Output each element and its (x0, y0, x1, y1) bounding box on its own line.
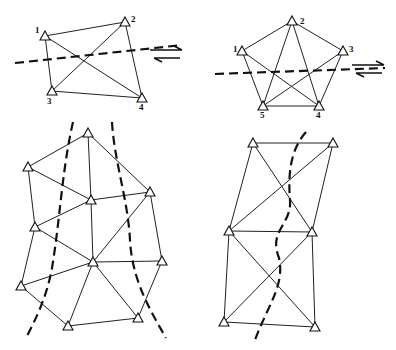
station-label: 1 (35, 25, 40, 35)
fault-traces (15, 45, 385, 340)
triangle-station-icon (16, 281, 26, 290)
station-label: 1 (233, 44, 238, 54)
baseline-edge (312, 143, 333, 232)
baseline-edge (35, 227, 93, 262)
baseline-edge (263, 21, 292, 106)
baseline-edge (45, 36, 52, 91)
station-label: 5 (260, 110, 265, 120)
baseline-edge (68, 318, 138, 326)
baseline-edge (52, 91, 142, 98)
baseline-edge (28, 167, 91, 200)
baseline-edge (88, 133, 91, 200)
baseline-edge (292, 21, 319, 106)
triangle-station-icon (157, 256, 167, 265)
baseline-edge (21, 286, 68, 326)
baseline-edge (68, 262, 93, 326)
baseline-edge (91, 200, 93, 262)
survey-stations (16, 16, 348, 331)
triangle-station-icon (83, 128, 93, 137)
fault-diagram-canvas: 123412345 (0, 0, 396, 350)
baseline-edge (88, 133, 150, 192)
baseline-edge (229, 231, 315, 327)
baseline-edge (21, 227, 35, 286)
baseline-edge (229, 231, 312, 232)
triangle-station-icon (30, 222, 40, 231)
baseline-edge (91, 192, 150, 200)
baseline-edge (93, 261, 162, 262)
triangle-station-icon (23, 162, 33, 171)
baseline-edge (21, 262, 93, 286)
triangle-station-icon (224, 226, 234, 235)
station-label: 2 (131, 14, 136, 24)
station-label: 3 (47, 96, 52, 106)
triangle-station-icon (287, 16, 297, 25)
baseline-edge (28, 167, 35, 227)
station-label: 4 (139, 102, 144, 112)
triangle-station-icon (237, 46, 247, 55)
triangle-station-icon (338, 46, 348, 55)
baseline-edge (45, 36, 142, 98)
baseline-edge (224, 322, 315, 327)
baseline-edge (125, 22, 142, 98)
triangle-station-icon (120, 17, 130, 26)
network-edges (21, 21, 343, 327)
baseline-edge (224, 231, 229, 322)
baseline-edge (229, 143, 253, 231)
station-label: 3 (349, 44, 354, 54)
baseline-edge (242, 21, 292, 51)
baseline-edge (242, 51, 319, 106)
baseline-edge (150, 192, 162, 261)
station-label: 4 (316, 110, 321, 120)
baseline-edge (242, 51, 263, 106)
baseline-edge (312, 232, 315, 327)
baseline-edge (35, 200, 91, 227)
fault-trace (112, 122, 166, 338)
baseline-edge (93, 192, 150, 262)
baseline-edge (28, 133, 88, 167)
baseline-edge (229, 143, 333, 231)
station-label: 2 (300, 16, 305, 26)
baseline-edge (93, 262, 138, 318)
baseline-edge (253, 143, 312, 232)
